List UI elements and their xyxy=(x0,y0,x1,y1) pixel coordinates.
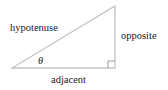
theta-angle-label: θ xyxy=(38,56,43,67)
right-angle-marker xyxy=(108,61,115,68)
opposite-label: opposite xyxy=(121,31,157,42)
adjacent-label: adjacent xyxy=(51,75,86,86)
right-triangle-diagram: hypotenuse opposite adjacent θ xyxy=(0,0,168,90)
hypotenuse-label: hypotenuse xyxy=(10,23,58,34)
